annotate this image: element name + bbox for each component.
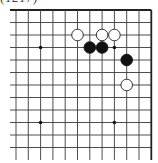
go-board-diagram bbox=[0, 0, 158, 163]
white-stone bbox=[72, 29, 84, 41]
star-point bbox=[113, 121, 117, 125]
white-stone bbox=[121, 79, 133, 91]
black-stone bbox=[121, 54, 133, 66]
white-stone bbox=[96, 29, 108, 41]
star-point bbox=[39, 46, 43, 50]
black-stone bbox=[84, 42, 96, 54]
star-point bbox=[113, 46, 117, 50]
white-stone bbox=[109, 29, 121, 41]
star-point bbox=[39, 121, 43, 125]
black-stone bbox=[96, 42, 108, 54]
